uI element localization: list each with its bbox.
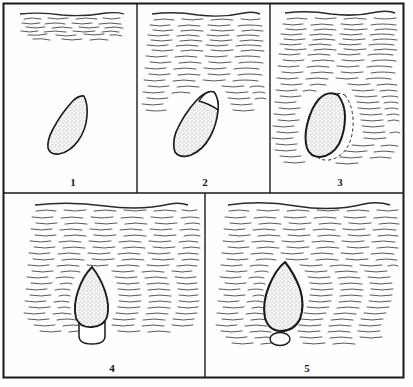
panel-number-5: 5 [304,362,310,374]
panel-number-4: 4 [109,362,115,374]
panel-number-1: 1 [70,176,76,188]
panel-number-3: 3 [337,176,343,188]
basal-cap-detached [270,333,290,346]
figure-root: 1 [0,0,413,387]
panel-number-2: 2 [202,176,208,188]
figure-svg: 1 [0,0,413,387]
